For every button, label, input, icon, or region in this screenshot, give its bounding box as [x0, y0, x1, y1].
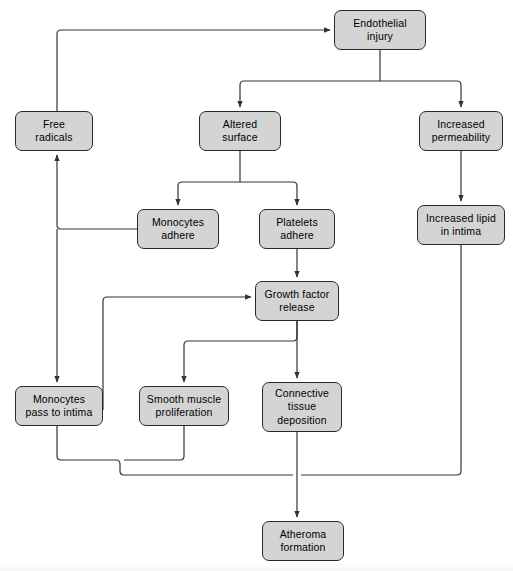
edge-growth-factor-to-smooth-muscle-proliferation	[184, 321, 297, 382]
page-bottom-edge	[0, 562, 513, 571]
edge-bus-to-monocytes-adhere	[178, 182, 240, 205]
node-label: Growth factor release	[256, 288, 338, 315]
node-connective-tissue-deposition[interactable]: Connective tissue deposition	[262, 382, 342, 432]
node-label: Increased permeability	[420, 118, 502, 145]
node-label: Atheroma formation	[263, 528, 343, 555]
node-atheroma-formation[interactable]: Atheroma formation	[262, 521, 344, 561]
edge-bus-to-altered-surface	[240, 81, 380, 107]
node-platelets-adhere[interactable]: Platelets adhere	[259, 209, 335, 249]
node-label: Free radicals	[16, 118, 92, 145]
edge-free-radicals-to-endothelial-injury	[57, 30, 330, 111]
edge-bus-to-platelets-adhere	[240, 182, 297, 205]
node-label: Monocytes adhere	[138, 216, 218, 243]
node-growth-factor-release[interactable]: Growth factor release	[255, 281, 339, 321]
node-label: Monocytes pass to intima	[16, 393, 102, 420]
node-label: Altered surface	[200, 118, 280, 145]
node-increased-lipid-in-intima[interactable]: Increased lipid in intima	[417, 205, 505, 245]
edge-monocytes-pass-to-intima-to-merge	[57, 426, 116, 460]
flowchart-canvas: Endothelial injury Free radicals Altered…	[0, 0, 513, 571]
node-monocytes-adhere[interactable]: Monocytes adhere	[137, 209, 219, 249]
node-label: Increased lipid in intima	[418, 212, 504, 239]
node-endothelial-injury[interactable]: Endothelial injury	[334, 10, 426, 50]
node-label: Platelets adhere	[260, 216, 334, 243]
edge-monocytes-adhere-to-free-radicals	[57, 155, 137, 229]
node-label: Smooth muscle proliferation	[140, 393, 228, 420]
edge-smooth-muscle-proliferation-to-merge	[124, 426, 184, 460]
node-altered-surface[interactable]: Altered surface	[199, 111, 281, 151]
edge-merge-elbow-left	[116, 460, 293, 475]
node-label: Endothelial injury	[335, 17, 425, 44]
node-increased-permeability[interactable]: Increased permeability	[419, 111, 503, 151]
node-smooth-muscle-proliferation[interactable]: Smooth muscle proliferation	[139, 386, 229, 426]
edge-increased-lipid-to-merge	[301, 245, 461, 475]
node-label: Connective tissue deposition	[263, 387, 341, 428]
node-free-radicals[interactable]: Free radicals	[15, 111, 93, 151]
edge-bus-to-increased-permeability	[380, 81, 461, 107]
node-monocytes-pass-to-intima[interactable]: Monocytes pass to intima	[15, 386, 103, 426]
